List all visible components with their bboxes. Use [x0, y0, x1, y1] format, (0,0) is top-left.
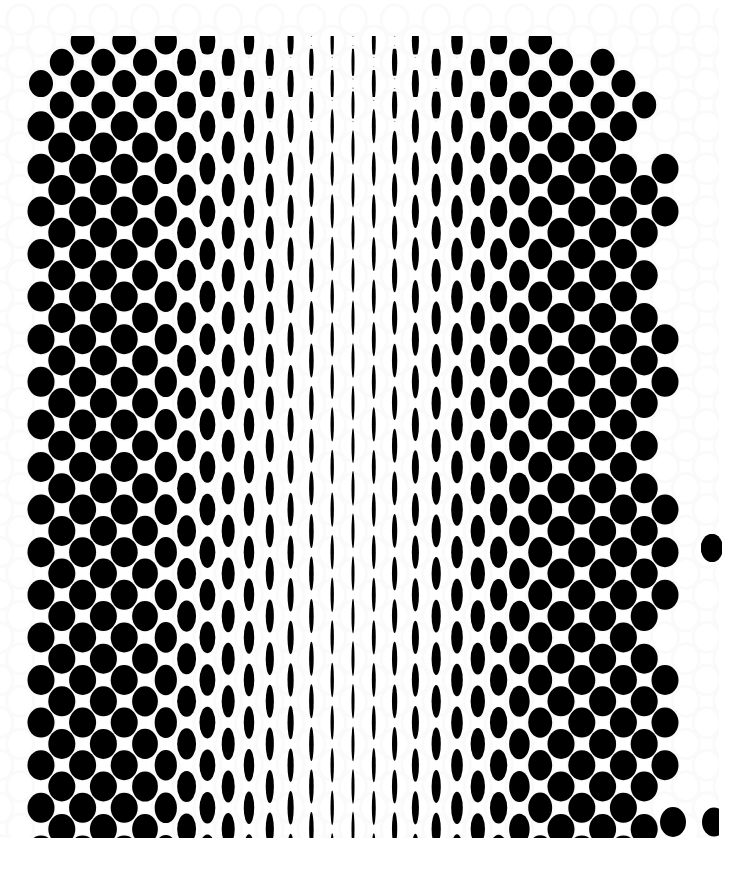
pattern-stage: Halftone Dot Lens Pattern Op-art halfton… — [0, 0, 747, 875]
halftone-dot-pattern — [0, 0, 747, 875]
